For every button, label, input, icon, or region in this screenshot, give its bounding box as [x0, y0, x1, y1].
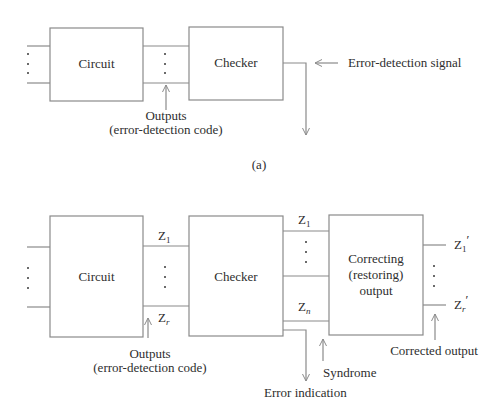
checker-z1-label: Z1 — [298, 212, 310, 229]
checker-input-ellipsis — [164, 266, 166, 288]
correcting-label-line1: Correcting — [348, 251, 404, 266]
zr-label: Zr — [158, 310, 170, 327]
outputs-sublabel: (error-detection code) — [109, 122, 222, 137]
z1-label: Z1 — [158, 228, 170, 245]
outputs-label: Outputs — [129, 346, 170, 361]
zn-label: Zn — [298, 299, 311, 316]
input-ellipsis — [27, 53, 29, 74]
correcting-input-ellipsis — [305, 241, 307, 263]
error-detection-signal-label: Error-detection signal — [348, 55, 462, 70]
checker-label: Checker — [214, 269, 258, 284]
output-ellipsis — [164, 53, 166, 74]
error-indication-label: Error indication — [264, 385, 347, 400]
checker-label: Checker — [214, 55, 258, 70]
correcting-label-line3: output — [359, 283, 393, 298]
error-signal-output-arrow-icon — [283, 63, 306, 135]
circuit-label: Circuit — [78, 56, 114, 71]
diagram-canvas: Circuit Outputs (error-detection code) C… — [0, 0, 497, 410]
error-indication-arrow-icon — [283, 330, 306, 381]
figure-a-caption: (a) — [252, 157, 266, 172]
outputs-sublabel: (error-detection code) — [93, 360, 206, 375]
correcting-label-line2: (restoring) — [349, 267, 404, 282]
zr-prime-label: Zr′ — [454, 292, 468, 314]
z1-prime-label: Z1′ — [454, 232, 469, 254]
outputs-label: Outputs — [145, 108, 186, 123]
figure-b: Circuit Z1 Zr Outputs (error-detection c… — [27, 212, 478, 400]
input-ellipsis — [27, 267, 29, 289]
corrected-output-label: Corrected output — [390, 343, 478, 358]
syndrome-label: Syndrome — [323, 365, 377, 380]
corrected-output-ellipsis — [433, 265, 435, 287]
circuit-label: Circuit — [78, 269, 114, 284]
figure-a: Circuit Outputs (error-detection code) C… — [27, 27, 462, 172]
